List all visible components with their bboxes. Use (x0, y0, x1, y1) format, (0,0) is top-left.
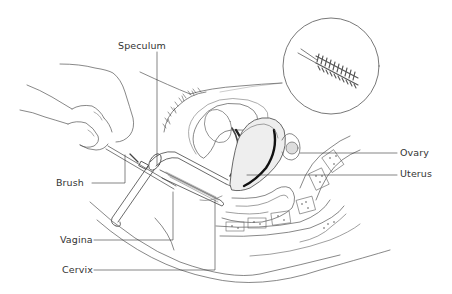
label-cervix: Cervix (62, 264, 93, 275)
speculum-instrument (112, 152, 229, 227)
gloved-hand (20, 64, 134, 150)
label-brush: Brush (56, 177, 84, 188)
anatomy-drawing (0, 0, 452, 294)
inset-magnifier (283, 18, 379, 114)
rectum (200, 187, 295, 223)
label-speculum: Speculum (118, 40, 166, 51)
uterus (230, 118, 285, 191)
label-vagina: Vagina (60, 234, 93, 245)
label-ovary: Ovary (400, 147, 429, 158)
illustration-canvas: Speculum Brush Vagina Cervix Ovary Uteru… (0, 0, 452, 294)
label-uterus: Uterus (400, 168, 432, 179)
